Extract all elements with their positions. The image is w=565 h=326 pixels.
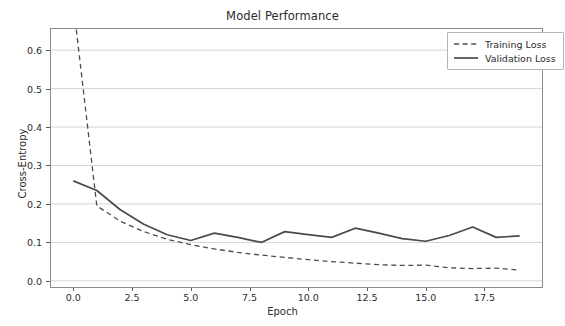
legend-item-training-loss[interactable]: Training Loss (453, 37, 556, 51)
legend-label-validation-loss: Validation Loss (485, 53, 556, 64)
x-tick-label: 7.5 (242, 292, 257, 303)
x-tick-label: 2.5 (124, 292, 139, 303)
y-tick-label: 0.4 (0, 122, 42, 133)
x-tick-label: 10.0 (298, 292, 319, 303)
y-tick-label: 0.1 (0, 237, 42, 248)
chart-title: Model Performance (0, 9, 565, 23)
x-tick-label: 5.0 (183, 292, 198, 303)
x-tick-label: 0.0 (66, 292, 81, 303)
solid-line-icon (453, 53, 479, 63)
legend-item-validation-loss[interactable]: Validation Loss (453, 51, 556, 65)
series-line-validation-loss (73, 181, 519, 243)
x-tick-label: 12.5 (356, 292, 377, 303)
y-tick-label: 0.3 (0, 160, 42, 171)
dashed-line-icon (453, 39, 479, 49)
chart-figure: Model Performance Cross-Entropy Epoch 0.… (0, 0, 565, 326)
y-tick-label: 0.0 (0, 275, 42, 286)
gridlines (51, 50, 542, 281)
x-tick-label: 17.5 (474, 292, 495, 303)
legend-label-training-loss: Training Loss (485, 39, 546, 50)
chart-legend[interactable]: Training Loss Validation Loss (447, 32, 564, 70)
y-tick-label: 0.5 (0, 83, 42, 94)
x-tick-label: 15.0 (415, 292, 436, 303)
y-tick-label: 0.2 (0, 198, 42, 209)
y-tick-label: 0.6 (0, 45, 42, 56)
x-axis-label: Epoch (0, 306, 565, 317)
